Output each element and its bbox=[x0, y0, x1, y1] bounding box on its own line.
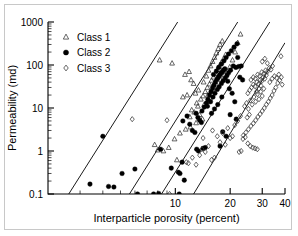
permeability-porosity-scatter-chart: 0.1110100100010203040Interparticle poros… bbox=[0, 0, 298, 236]
data-point-class-2 bbox=[228, 112, 233, 117]
data-point-class-3 bbox=[276, 80, 280, 85]
data-point-class-2 bbox=[235, 42, 240, 47]
data-point-class-1 bbox=[185, 92, 190, 96]
data-point-group bbox=[88, 32, 285, 197]
data-point-class-2 bbox=[205, 104, 210, 109]
legend-label-3: Class 3 bbox=[77, 63, 111, 74]
legend-group: Class 1Class 2Class 3 bbox=[63, 32, 110, 74]
x-axis-title: Interparticle porosity (percent) bbox=[93, 212, 239, 224]
data-point-class-3 bbox=[215, 134, 219, 139]
data-point-class-2 bbox=[180, 160, 185, 165]
data-point-class-3 bbox=[184, 160, 188, 165]
data-point-class-2 bbox=[156, 191, 161, 196]
data-point-class-2 bbox=[235, 55, 240, 60]
data-point-class-2 bbox=[223, 66, 228, 71]
data-point-class-1 bbox=[175, 157, 180, 161]
legend-marker-class-1 bbox=[63, 34, 68, 39]
data-point-class-2 bbox=[228, 68, 233, 73]
data-point-class-1 bbox=[196, 88, 201, 92]
data-point-class-1 bbox=[189, 77, 194, 81]
data-point-class-1 bbox=[157, 58, 162, 62]
data-point-class-2 bbox=[193, 130, 198, 135]
data-point-class-1 bbox=[238, 32, 243, 36]
axis-label-group: 0.1110100100010203040Interparticle poros… bbox=[6, 17, 291, 225]
data-point-class-2 bbox=[239, 64, 244, 69]
data-point-class-1 bbox=[172, 136, 177, 140]
data-point-class-2 bbox=[106, 184, 111, 189]
data-point-class-2 bbox=[88, 182, 93, 187]
data-point-class-1 bbox=[166, 145, 171, 149]
chart-svg: 0.1110100100010203040Interparticle poros… bbox=[0, 0, 298, 236]
data-point-class-3 bbox=[186, 161, 190, 166]
data-point-class-2 bbox=[199, 120, 204, 125]
data-point-class-1 bbox=[183, 72, 188, 76]
data-point-class-3 bbox=[280, 82, 284, 87]
data-point-class-2 bbox=[194, 111, 199, 116]
data-point-class-1 bbox=[201, 80, 206, 84]
data-point-class-2 bbox=[220, 95, 225, 100]
data-point-class-2 bbox=[209, 111, 214, 116]
data-point-class-3 bbox=[245, 101, 249, 106]
x-tick-label: 10 bbox=[170, 198, 182, 209]
data-point-class-2 bbox=[181, 119, 186, 124]
data-point-class-1 bbox=[178, 131, 183, 135]
legend-marker-class-2 bbox=[63, 50, 68, 55]
data-point-class-2 bbox=[178, 171, 183, 176]
data-point-class-1 bbox=[206, 68, 211, 72]
data-point-class-2 bbox=[208, 99, 213, 104]
data-point-class-3 bbox=[165, 118, 169, 123]
data-point-class-3 bbox=[201, 135, 205, 140]
data-point-class-3 bbox=[239, 148, 243, 153]
data-point-class-2 bbox=[225, 79, 230, 84]
legend-label-2: Class 2 bbox=[77, 47, 111, 58]
data-point-class-2 bbox=[212, 107, 217, 112]
data-point-class-1 bbox=[220, 38, 225, 42]
data-point-class-2 bbox=[215, 102, 220, 107]
data-point-class-2 bbox=[169, 166, 174, 171]
data-point-class-3 bbox=[210, 128, 214, 133]
data-point-class-2 bbox=[185, 114, 190, 119]
y-tick-label: 100 bbox=[26, 60, 43, 71]
data-point-class-3 bbox=[190, 155, 194, 160]
data-point-class-2 bbox=[158, 147, 163, 152]
data-point-class-3 bbox=[130, 117, 134, 122]
x-tick-label: 40 bbox=[279, 198, 291, 209]
data-point-class-3 bbox=[194, 162, 198, 167]
legend-marker-class-3 bbox=[64, 65, 69, 71]
data-point-class-3 bbox=[265, 61, 269, 66]
data-point-class-2 bbox=[232, 99, 237, 104]
data-point-class-2 bbox=[133, 167, 138, 172]
data-point-class-2 bbox=[120, 171, 125, 176]
data-point-class-1 bbox=[201, 93, 206, 97]
y-tick-label: 0.1 bbox=[29, 189, 43, 200]
data-point-class-1 bbox=[152, 142, 157, 146]
y-tick-label: 1 bbox=[37, 146, 43, 157]
y-tick-label: 1000 bbox=[21, 17, 44, 28]
data-point-class-1 bbox=[183, 127, 188, 131]
data-point-class-2 bbox=[227, 86, 232, 91]
x-tick-label: 20 bbox=[225, 198, 237, 209]
y-tick-label: 10 bbox=[32, 103, 44, 114]
data-point-class-2 bbox=[101, 134, 106, 139]
y-axis-title: Permeability (md) bbox=[6, 65, 18, 151]
data-point-class-1 bbox=[195, 104, 200, 108]
data-point-class-2 bbox=[182, 178, 187, 183]
legend-label-1: Class 1 bbox=[77, 32, 111, 43]
data-point-class-1 bbox=[230, 58, 235, 62]
data-point-class-1 bbox=[170, 61, 175, 65]
data-point-class-1 bbox=[187, 69, 192, 73]
data-point-class-3 bbox=[246, 106, 250, 111]
data-point-class-2 bbox=[224, 134, 229, 139]
data-point-class-2 bbox=[187, 122, 192, 127]
x-tick-label: 30 bbox=[257, 198, 269, 209]
data-point-class-3 bbox=[279, 54, 283, 59]
trendline-line-2 bbox=[129, 22, 237, 194]
data-point-class-3 bbox=[226, 126, 230, 131]
data-point-class-3 bbox=[246, 91, 250, 96]
data-point-class-3 bbox=[237, 149, 241, 154]
data-point-class-2 bbox=[112, 185, 117, 190]
data-point-class-2 bbox=[230, 91, 235, 96]
data-point-class-2 bbox=[240, 78, 245, 83]
